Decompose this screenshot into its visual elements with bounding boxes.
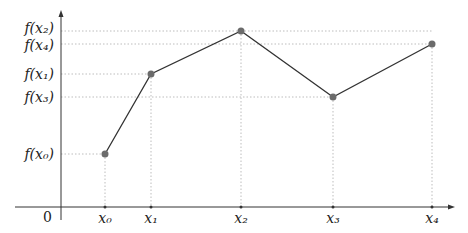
piecewise-linear-chart: x₀x₁x₂x₃x₄f(x₀)f(x₁)f(x₂)f(x₃)f(x₄)0: [0, 0, 468, 233]
data-point-marker: [238, 28, 245, 35]
series-line: [105, 31, 432, 154]
x-tick-label: x₂: [234, 210, 248, 226]
y-axis-arrow-icon: [59, 10, 64, 17]
x-tick-label: x₄: [425, 210, 439, 226]
x-tick-label: x₃: [326, 210, 340, 226]
data-point-marker: [102, 151, 109, 158]
y-tick-label: f(x₀): [23, 146, 54, 162]
x-tick-dot: [240, 206, 243, 209]
guide-lines: [61, 31, 432, 207]
y-tick-label: f(x₃): [23, 89, 54, 105]
y-tick-label: f(x₂): [23, 20, 54, 36]
axes: [15, 10, 455, 220]
y-tick-label: f(x₄): [23, 37, 54, 53]
origin-label: 0: [43, 209, 52, 225]
x-tick-label: x₀: [98, 210, 112, 226]
x-tick-label: x₁: [144, 210, 158, 226]
data-point-marker: [148, 71, 155, 78]
y-tick-label: f(x₁): [23, 66, 54, 82]
x-tick-dot: [332, 206, 335, 209]
axis-labels: x₀x₁x₂x₃x₄f(x₀)f(x₁)f(x₂)f(x₃)f(x₄)0: [23, 20, 439, 226]
x-tick-dot: [104, 206, 107, 209]
data-point-marker: [429, 41, 436, 48]
data-point-marker: [330, 94, 337, 101]
x-axis-arrow-icon: [448, 205, 455, 210]
data-series: [102, 28, 436, 158]
x-tick-dot: [431, 206, 434, 209]
x-tick-dot: [150, 206, 153, 209]
